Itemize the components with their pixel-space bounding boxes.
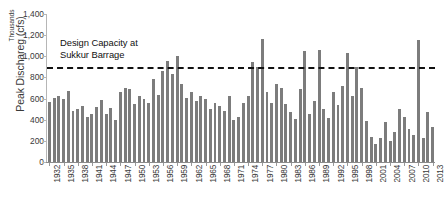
x-tick-label: 1959 xyxy=(180,165,189,182)
bar xyxy=(161,71,164,162)
x-tick-label: 2004 xyxy=(393,165,402,182)
bar xyxy=(408,129,411,162)
bar xyxy=(412,135,415,162)
bar xyxy=(67,91,70,162)
bar xyxy=(422,138,425,162)
y-tick-label: 0 xyxy=(2,157,44,167)
bar xyxy=(266,92,269,162)
bar xyxy=(124,88,127,162)
x-tick-label: 1998 xyxy=(365,165,374,182)
bar xyxy=(426,112,429,162)
x-tick-label: 1944 xyxy=(109,165,118,182)
x-tick-label: 2001 xyxy=(379,165,388,182)
bar xyxy=(242,103,245,162)
x-tick-label: 1962 xyxy=(195,165,204,182)
x-tick-label: 1980 xyxy=(280,165,289,182)
bar xyxy=(346,53,349,162)
bar xyxy=(374,144,377,163)
bar xyxy=(393,132,396,162)
bar xyxy=(90,114,93,162)
x-tick-mark xyxy=(404,163,405,166)
x-tick-mark xyxy=(49,163,50,166)
x-tick-mark xyxy=(319,163,320,166)
x-tick-label: 1992 xyxy=(337,165,346,182)
bar xyxy=(171,74,174,162)
bar xyxy=(284,104,287,162)
bar xyxy=(256,67,259,162)
x-tick-mark xyxy=(347,163,348,166)
bar xyxy=(152,79,155,163)
bar xyxy=(332,92,335,162)
x-tick-mark xyxy=(163,163,164,166)
y-tick-label: 600 xyxy=(2,94,44,104)
x-tick-label: 2007 xyxy=(408,165,417,182)
x-tick-label: 1950 xyxy=(138,165,147,182)
bar xyxy=(237,117,240,162)
bar xyxy=(247,96,250,162)
bar xyxy=(280,88,283,162)
bar xyxy=(114,120,117,162)
bar xyxy=(327,118,330,162)
bar xyxy=(105,114,108,162)
x-tick-label: 1953 xyxy=(152,165,161,182)
design-capacity-threshold-line xyxy=(47,67,435,69)
bar xyxy=(289,112,292,162)
bar xyxy=(72,111,75,162)
x-tick-label: 2010 xyxy=(422,165,431,182)
x-tick-mark xyxy=(234,163,235,166)
bar xyxy=(157,95,160,162)
x-tick-mark xyxy=(191,163,192,166)
bar xyxy=(270,103,273,162)
x-tick-label: 1974 xyxy=(251,165,260,182)
x-tick-label: 1956 xyxy=(166,165,175,182)
bar xyxy=(147,103,150,162)
x-tick-mark xyxy=(390,163,391,166)
y-axis-ticks: 02004006008001,0001,2001,400 xyxy=(0,14,44,162)
bar xyxy=(275,84,278,162)
bar xyxy=(398,109,401,162)
bar xyxy=(76,109,79,162)
bar xyxy=(81,106,84,162)
bar xyxy=(86,117,89,162)
bar xyxy=(431,127,434,162)
x-axis-ticks: 1932193519381941194419471950195319561959… xyxy=(47,163,435,211)
y-tick-label: 200 xyxy=(2,136,44,146)
bar xyxy=(195,101,198,162)
bar xyxy=(370,137,373,162)
x-tick-mark xyxy=(433,163,434,166)
bar xyxy=(214,103,217,162)
x-tick-label: 1941 xyxy=(95,165,104,182)
bar xyxy=(403,117,406,162)
bar xyxy=(365,121,368,162)
bar xyxy=(228,96,231,162)
x-tick-mark xyxy=(376,163,377,166)
y-tick-label: 1,200 xyxy=(2,30,44,40)
x-tick-mark xyxy=(333,163,334,166)
bar xyxy=(176,56,179,162)
y-tick-label: 400 xyxy=(2,115,44,125)
bar xyxy=(232,120,235,162)
bar xyxy=(337,105,340,162)
x-tick-label: 1968 xyxy=(223,165,232,182)
bar xyxy=(53,98,56,162)
bar xyxy=(166,61,169,162)
bar xyxy=(308,114,311,162)
peak-discharge-bar-chart: Thousands Peak Dischareg (cfs) 020040060… xyxy=(0,0,439,211)
bar xyxy=(119,92,122,162)
bar xyxy=(100,100,103,162)
x-tick-mark xyxy=(120,163,121,166)
bar xyxy=(261,39,264,162)
bar xyxy=(62,99,65,162)
bar xyxy=(360,88,363,162)
x-tick-mark xyxy=(92,163,93,166)
x-tick-mark xyxy=(305,163,306,166)
x-tick-mark xyxy=(78,163,79,166)
x-tick-mark xyxy=(291,163,292,166)
bar xyxy=(180,84,183,162)
bar xyxy=(95,107,98,162)
x-tick-mark xyxy=(106,163,107,166)
bar xyxy=(109,108,112,162)
bar xyxy=(251,62,254,162)
x-tick-label: 1989 xyxy=(322,165,331,182)
bar xyxy=(57,96,60,162)
